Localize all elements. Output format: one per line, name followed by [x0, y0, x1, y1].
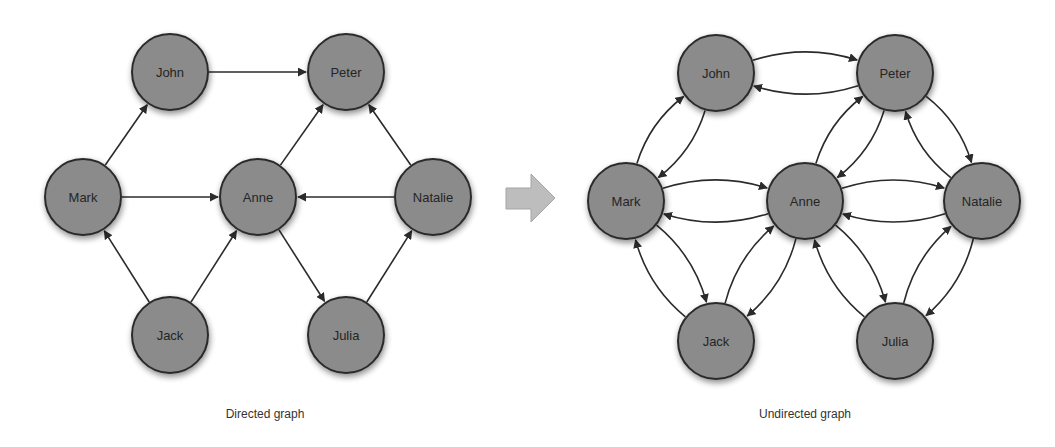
- edge-anne-to-peter: [816, 97, 863, 164]
- edge-natalie-to-julia: [926, 239, 973, 316]
- node-label: Jack: [157, 328, 184, 343]
- undirected-graph: JohnPeterMarkAnneNatalieJackJulia: [588, 35, 1020, 379]
- node-label: Jack: [703, 334, 730, 349]
- edge-anne-to-jack: [747, 239, 796, 316]
- edge-anne-to-mark: [664, 214, 768, 223]
- edge-anne-to-julia: [279, 230, 325, 301]
- undirected-graph-caption: Undirected graph: [705, 407, 905, 421]
- edge-natalie-to-peter: [369, 105, 411, 165]
- node-julia: Julia: [308, 297, 384, 373]
- edge-mark-to-john: [637, 97, 684, 164]
- node-anne: Anne: [767, 163, 843, 239]
- node-label: Natalie: [413, 190, 453, 205]
- edge-john-to-peter: [753, 52, 857, 61]
- node-jack: Jack: [132, 297, 208, 373]
- node-label: Julia: [882, 334, 910, 349]
- edge-julia-to-natalie: [367, 231, 412, 302]
- node-label: Anne: [790, 194, 820, 209]
- node-mark: Mark: [45, 159, 121, 235]
- edge-jack-to-mark: [636, 240, 686, 317]
- node-label: Mark: [612, 194, 641, 209]
- edge-natalie-to-peter: [906, 112, 951, 178]
- edge-jack-to-anne: [725, 226, 774, 303]
- edge-peter-to-john: [754, 86, 858, 95]
- edge-anne-to-julia: [836, 225, 886, 302]
- edge-jack-to-mark: [104, 231, 149, 302]
- edge-mark-to-john: [105, 105, 147, 165]
- node-julia: Julia: [857, 303, 933, 379]
- node-label: Anne: [243, 190, 273, 205]
- node-label: Natalie: [962, 194, 1002, 209]
- edge-julia-to-anne: [815, 240, 865, 317]
- directed-graph-caption: Directed graph: [165, 407, 365, 421]
- node-john: John: [132, 34, 208, 110]
- node-label: Peter: [330, 65, 362, 80]
- node-peter: Peter: [857, 35, 933, 111]
- edge-mark-to-jack: [657, 225, 707, 302]
- node-anne: Anne: [220, 159, 296, 235]
- undirected-nodes: JohnPeterMarkAnneNatalieJackJulia: [588, 35, 1020, 379]
- edge-jack-to-anne: [191, 231, 237, 302]
- edge-natalie-to-anne: [843, 214, 945, 222]
- node-label: John: [156, 65, 184, 80]
- directed-nodes: JohnPeterMarkAnneNatalieJackJulia: [45, 34, 471, 373]
- node-label: Peter: [879, 66, 911, 81]
- node-mark: Mark: [588, 163, 664, 239]
- edge-peter-to-natalie: [926, 96, 971, 162]
- edge-john-to-mark: [658, 110, 705, 177]
- node-label: Julia: [333, 328, 361, 343]
- node-jack: Jack: [678, 303, 754, 379]
- node-john: John: [678, 35, 754, 111]
- node-peter: Peter: [308, 34, 384, 110]
- edge-julia-to-natalie: [904, 226, 951, 303]
- graph-figure: JohnPeterMarkAnneNatalieJackJulia JohnPe…: [0, 0, 1055, 447]
- directed-graph: JohnPeterMarkAnneNatalieJackJulia: [45, 34, 471, 373]
- node-natalie: Natalie: [395, 159, 471, 235]
- edge-anne-to-natalie: [842, 180, 944, 188]
- edge-anne-to-peter: [280, 105, 323, 165]
- right-arrow-icon: [506, 174, 555, 222]
- node-label: John: [702, 66, 730, 81]
- node-natalie: Natalie: [944, 163, 1020, 239]
- node-label: Mark: [69, 190, 98, 205]
- edge-mark-to-anne: [663, 180, 767, 189]
- edge-peter-to-anne: [837, 110, 884, 177]
